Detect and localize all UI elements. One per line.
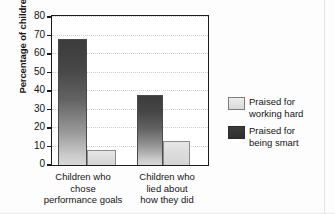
legend-label-praised-working-hard: Praised for working hard <box>249 96 303 119</box>
legend2-line1: Praised for <box>249 125 299 137</box>
plot-inner <box>52 16 208 165</box>
tick-label-60: 60 <box>34 48 45 58</box>
x-label2-line2: lied about <box>120 183 214 195</box>
tick-label-20: 20 <box>34 122 45 132</box>
tick-label-10: 10 <box>34 141 45 151</box>
scan-artifact-right-edge <box>324 0 325 214</box>
legend-swatch-dark-icon <box>228 126 245 139</box>
scan-artifact-bottom-edge <box>0 213 335 214</box>
bar-group1-praised-being-smart <box>58 39 87 165</box>
tick-label-70: 70 <box>34 30 45 40</box>
legend2-line2: being smart <box>249 137 299 149</box>
gridline-80 <box>52 16 208 18</box>
x-label2-line1: Children who <box>120 171 214 183</box>
tick-label-40: 40 <box>34 85 45 95</box>
legend-item-praised-working-hard: Praised for working hard <box>228 96 332 119</box>
chart-legend: Praised for working hard Praised for bei… <box>228 96 332 154</box>
y-axis-title: Percentage of children <box>17 0 28 114</box>
x-label1-line2: chose <box>36 183 130 195</box>
bar-chart-figure: Percentage of children 80 70 <box>0 0 335 214</box>
gridline-70 <box>52 35 208 37</box>
legend1-line1: Praised for <box>249 96 303 108</box>
tick-label-30: 30 <box>34 104 45 114</box>
tick-label-0: 0 <box>39 159 45 169</box>
legend-item-praised-being-smart: Praised for being smart <box>228 125 332 148</box>
legend1-line2: working hard <box>249 108 303 120</box>
x-label1-line3: performance goals <box>36 194 130 206</box>
x-label2-line3: how they did <box>120 194 214 206</box>
plot-area: 80 70 60 50 40 30 20 10 <box>51 15 209 166</box>
bar-group1-praised-working-hard <box>87 150 116 165</box>
tick-label-50: 50 <box>34 67 45 77</box>
bar-group2-praised-being-smart <box>137 95 163 165</box>
legend-label-praised-being-smart: Praised for being smart <box>249 125 299 148</box>
legend-swatch-light-icon <box>228 97 245 110</box>
x-axis-group-label-2: Children who lied about how they did <box>120 171 214 206</box>
x-axis-group-label-1: Children who chose performance goals <box>36 171 130 206</box>
bar-group2-praised-working-hard <box>163 141 190 165</box>
tick-label-80: 80 <box>34 11 45 21</box>
x-label1-line1: Children who <box>36 171 130 183</box>
